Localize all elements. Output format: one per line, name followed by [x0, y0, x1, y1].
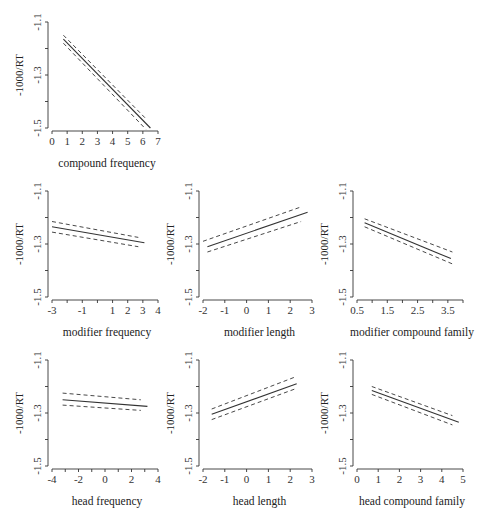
x-tick-label: 2 — [287, 473, 293, 485]
x-tick-label: 1 — [266, 304, 272, 316]
confidence-band-line — [203, 207, 301, 241]
x-tick-label: 1 — [375, 473, 381, 485]
x-tick-label: 0 — [49, 135, 55, 147]
y-tick-label: -1.1 — [182, 182, 194, 199]
x-tick-label: 3.5 — [441, 304, 455, 316]
y-tick-label: -1.3 — [31, 66, 43, 84]
panel-head-length: -1.1-1.3-1.5-2-10123-1000/RThead length — [164, 351, 315, 508]
x-axis-label: head frequency — [72, 495, 143, 508]
x-tick-label: 1 — [110, 304, 116, 316]
x-tick-label: 0.5 — [350, 304, 364, 316]
x-tick-label: 3 — [309, 473, 315, 485]
x-tick-label: -1 — [220, 304, 229, 316]
confidence-band-line — [365, 227, 453, 264]
y-axis-label: -1000/RT — [13, 392, 25, 434]
y-tick-label: -1.5 — [182, 457, 194, 475]
x-axis-label: compound frequency — [58, 157, 156, 170]
x-tick-label: 2 — [125, 304, 131, 316]
panel-head-frequency: -1.1-1.3-1.5-4-2024-1000/RThead frequenc… — [13, 351, 161, 508]
x-tick-label: 3 — [418, 473, 424, 485]
y-tick-label: -1.1 — [336, 351, 348, 368]
fitted-line — [63, 39, 150, 128]
fitted-line — [365, 223, 451, 259]
x-tick-label: 4 — [110, 135, 116, 147]
x-tick-label: 0 — [354, 473, 360, 485]
x-axis-label: head compound family — [359, 495, 465, 508]
x-tick-label: 4 — [439, 473, 445, 485]
y-tick-label: -1.1 — [31, 13, 43, 30]
confidence-band-line — [63, 35, 145, 119]
x-tick-label: 2 — [80, 135, 86, 147]
y-axis-label: -1000/RT — [13, 223, 25, 265]
confidence-band-line — [372, 394, 453, 425]
x-tick-label: 2 — [287, 304, 293, 316]
fitted-line — [63, 400, 148, 407]
confidence-band-line — [63, 393, 141, 400]
panel-modifier-length: -1.1-1.3-1.5-2-10123-1000/RTmodifier len… — [164, 182, 315, 339]
y-tick-label: -1.3 — [182, 235, 194, 253]
fitted-line — [212, 384, 297, 415]
panel-modifier-frequency: -1.1-1.3-1.5-3-11234-1000/RTmodifier fre… — [13, 182, 161, 339]
x-tick-label: 7 — [155, 135, 161, 147]
confidence-band-line — [63, 43, 145, 129]
y-tick-label: -1.3 — [31, 235, 43, 253]
x-tick-label: 0 — [102, 473, 108, 485]
x-tick-label: 3 — [140, 304, 146, 316]
x-tick-label: 4 — [155, 473, 161, 485]
x-tick-label: -4 — [47, 473, 57, 485]
x-tick-label: -2 — [198, 473, 207, 485]
y-tick-label: -1.5 — [182, 288, 194, 306]
y-axis-label: -1000/RT — [318, 223, 330, 265]
y-tick-label: -1.5 — [336, 288, 348, 306]
y-tick-label: -1.5 — [31, 457, 43, 475]
y-tick-label: -1.1 — [182, 351, 194, 368]
x-tick-label: -3 — [47, 304, 57, 316]
x-tick-label: -2 — [198, 304, 207, 316]
x-tick-label: 3 — [309, 304, 315, 316]
fitted-line — [207, 212, 307, 247]
confidence-band-line — [212, 389, 295, 420]
confidence-band-line — [207, 222, 301, 253]
y-tick-label: -1.3 — [336, 235, 348, 253]
y-axis-label: -1000/RT — [164, 392, 176, 434]
confidence-band-line — [365, 219, 453, 252]
x-tick-label: 2 — [129, 473, 135, 485]
fitted-line — [372, 391, 459, 423]
y-tick-label: -1.5 — [31, 288, 43, 306]
y-tick-label: -1.3 — [336, 404, 348, 422]
x-tick-label: -2 — [74, 473, 83, 485]
x-tick-label: -1 — [220, 473, 229, 485]
x-tick-label: 4 — [155, 304, 161, 316]
x-tick-label: 2.5 — [411, 304, 425, 316]
x-tick-label: 2 — [397, 473, 403, 485]
confidence-band-line — [372, 387, 453, 416]
x-axis-label: head length — [233, 495, 287, 508]
x-axis-label: modifier frequency — [63, 326, 152, 339]
x-tick-label: 6 — [140, 135, 146, 147]
x-tick-label: 3 — [95, 135, 101, 147]
y-tick-label: -1.3 — [31, 404, 43, 422]
partial-effects-figure: -1.1-1.3-1.501234567-1000/RTcompound fre… — [0, 0, 480, 516]
y-axis-label: -1000/RT — [13, 54, 25, 96]
x-axis-label: modifier compound family — [350, 326, 474, 339]
panel-compound-frequency: -1.1-1.3-1.501234567-1000/RTcompound fre… — [13, 13, 161, 170]
x-tick-label: 5 — [125, 135, 131, 147]
x-tick-label: 5 — [460, 473, 466, 485]
y-tick-label: -1.1 — [336, 182, 348, 199]
y-tick-label: -1.1 — [31, 182, 43, 199]
x-tick-label: 0 — [244, 304, 250, 316]
x-axis-label: modifier length — [224, 326, 295, 339]
panel-head-compound-family: -1.1-1.3-1.5012345-1000/RThead compound … — [318, 351, 466, 508]
x-tick-label: -1 — [78, 304, 87, 316]
y-tick-label: -1.1 — [31, 351, 43, 368]
x-tick-label: 1 — [266, 473, 272, 485]
y-tick-label: -1.5 — [336, 457, 348, 475]
x-tick-label: 1.5 — [380, 304, 394, 316]
y-axis-label: -1000/RT — [318, 392, 330, 434]
x-tick-label: 1 — [64, 135, 70, 147]
y-axis-label: -1000/RT — [164, 223, 176, 265]
y-tick-label: -1.3 — [182, 404, 194, 422]
panel-modifier-compound-family: -1.1-1.3-1.50.51.52.53.5-1000/RTmodifier… — [318, 182, 474, 339]
confidence-band-line — [63, 405, 141, 410]
y-tick-label: -1.5 — [31, 119, 43, 137]
